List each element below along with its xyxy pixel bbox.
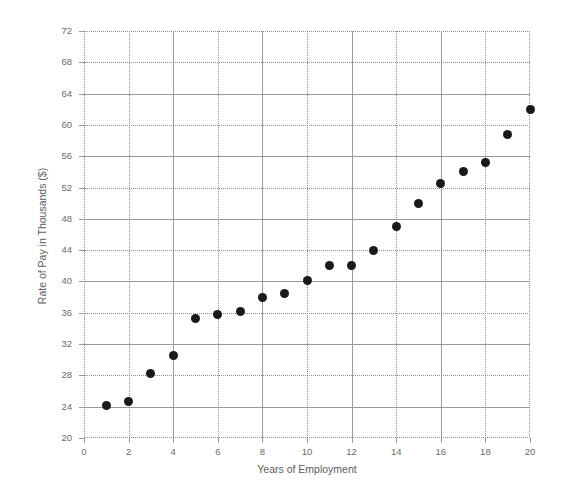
grid-line-vertical <box>396 31 397 438</box>
grid-line-vertical <box>352 31 353 438</box>
grid-line-vertical <box>129 31 130 438</box>
data-point <box>503 130 512 139</box>
x-axis-tick-label: 6 <box>205 447 231 457</box>
data-point <box>392 222 401 231</box>
y-axis-tick-mark <box>79 188 84 189</box>
data-point <box>347 261 356 270</box>
x-axis-tick-mark <box>485 438 486 443</box>
grid-line-vertical <box>262 31 263 438</box>
data-point <box>459 167 468 176</box>
y-axis-tick-label: 64 <box>46 89 72 99</box>
x-axis-tick-label: 18 <box>472 447 498 457</box>
x-axis-tick-mark <box>307 438 308 443</box>
grid-line-vertical <box>485 31 486 438</box>
x-axis-tick-mark <box>173 438 174 443</box>
grid-line-vertical <box>307 31 308 438</box>
y-axis-tick-label: 44 <box>46 245 72 255</box>
x-axis-tick-label: 16 <box>428 447 454 457</box>
data-point <box>146 369 155 378</box>
y-axis-tick-label: 40 <box>46 276 72 286</box>
data-point <box>213 310 222 319</box>
y-axis-tick-mark <box>79 156 84 157</box>
y-axis-tick-label: 24 <box>46 402 72 412</box>
data-point <box>258 293 267 302</box>
y-axis-tick-mark <box>79 375 84 376</box>
grid-line-vertical <box>173 31 174 438</box>
data-point <box>280 289 289 298</box>
x-axis-tick-label: 14 <box>383 447 409 457</box>
x-axis-tick-mark <box>352 438 353 443</box>
grid-line-vertical <box>441 31 442 438</box>
x-axis-tick-label: 0 <box>71 447 97 457</box>
data-point <box>481 158 490 167</box>
x-axis-tick-label: 10 <box>294 447 320 457</box>
plot-frame-left <box>84 31 85 438</box>
y-axis-tick-mark <box>79 313 84 314</box>
data-point <box>526 105 535 114</box>
y-axis-tick-mark <box>79 219 84 220</box>
y-axis-tick-label: 60 <box>46 120 72 130</box>
scatter-chart: 2024283236404448525660646872 02468101214… <box>0 0 563 498</box>
y-axis-tick-mark <box>79 281 84 282</box>
y-axis-tick-label: 32 <box>46 339 72 349</box>
x-axis-tick-mark <box>396 438 397 443</box>
y-axis-title: Rate of Pay in Thousands ($) <box>36 136 48 336</box>
y-axis-tick-label: 68 <box>46 57 72 67</box>
x-axis-tick-label: 12 <box>339 447 365 457</box>
x-axis-title: Years of Employment <box>84 463 530 475</box>
x-axis-tick-label: 20 <box>517 447 543 457</box>
y-axis-tick-label: 28 <box>46 370 72 380</box>
plot-frame-right <box>529 31 530 438</box>
y-axis-tick-mark <box>79 62 84 63</box>
data-point <box>414 199 423 208</box>
y-axis-tick-mark <box>79 94 84 95</box>
plot-area <box>84 31 530 438</box>
data-point <box>369 246 378 255</box>
x-axis-tick-label: 8 <box>249 447 275 457</box>
x-axis-tick-mark <box>84 438 85 443</box>
x-axis-tick-mark <box>218 438 219 443</box>
y-axis-tick-label: 48 <box>46 214 72 224</box>
grid-line-vertical <box>218 31 219 438</box>
data-point <box>124 397 133 406</box>
y-axis-tick-label: 72 <box>46 26 72 36</box>
y-axis-tick-mark <box>79 407 84 408</box>
data-point <box>191 314 200 323</box>
y-axis-tick-mark <box>79 344 84 345</box>
y-axis-tick-label: 20 <box>46 433 72 443</box>
y-axis-tick-mark <box>79 125 84 126</box>
data-point <box>325 261 334 270</box>
x-axis-tick-mark <box>262 438 263 443</box>
x-axis-tick-label: 2 <box>116 447 142 457</box>
x-axis-tick-mark <box>441 438 442 443</box>
y-axis-tick-label: 52 <box>46 183 72 193</box>
data-point <box>236 307 245 316</box>
y-axis-tick-label: 36 <box>46 308 72 318</box>
data-point <box>169 351 178 360</box>
y-axis-tick-label: 56 <box>46 151 72 161</box>
x-axis-tick-mark <box>129 438 130 443</box>
y-axis-tick-mark <box>79 31 84 32</box>
data-point <box>303 276 312 285</box>
y-axis-tick-mark <box>79 250 84 251</box>
x-axis-tick-label: 4 <box>160 447 186 457</box>
data-point <box>102 401 111 410</box>
x-axis-tick-mark <box>530 438 531 443</box>
